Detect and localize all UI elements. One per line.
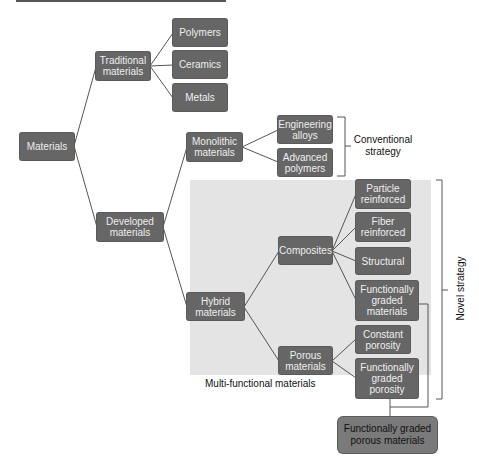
node-materials: Materials <box>20 133 74 160</box>
node-hybrid-materials: Hybrid materials <box>187 293 244 320</box>
node-porous-materials: Porous materials <box>279 347 332 374</box>
node-ceramics: Ceramics <box>173 51 227 78</box>
node-functionally-graded-porous-materials: Functionally graded porous materials <box>338 417 437 453</box>
node-particle-reinforced: Particle reinforced <box>356 180 410 208</box>
novel-strategy-label: Novel strategy <box>455 254 466 324</box>
node-advanced-polymers: Advanced polymers <box>278 149 332 176</box>
node-composites: Composites <box>279 237 332 264</box>
node-engineering-alloys: Engineering alloys <box>278 116 332 143</box>
node-monolithic-materials: Monolithic materials <box>187 133 242 161</box>
node-metals: Metals <box>173 84 227 111</box>
node-functionally-graded-porosity: Functionally graded porosity <box>356 359 418 398</box>
node-functionally-graded-materials: Functionally graded materials <box>356 281 418 320</box>
node-traditional-materials: Traditional materials <box>96 52 150 80</box>
node-developed-materials: Developed materials <box>97 213 163 241</box>
node-fiber-reinforced: Fiber reinforced <box>356 213 410 241</box>
node-constant-porosity: Constant porosity <box>356 326 410 353</box>
conventional-strategy-label: Conventional strategy <box>353 134 413 158</box>
node-structural: Structural <box>356 248 410 274</box>
node-polymers: Polymers <box>173 19 227 46</box>
